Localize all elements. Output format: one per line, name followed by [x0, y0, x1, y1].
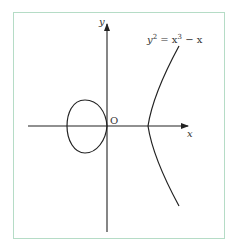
origin-label: O: [110, 115, 118, 126]
y-axis-label: y: [98, 16, 105, 27]
elliptic-curve-diagram: y x O y2 = x3 − x: [0, 0, 238, 251]
equation-label: y2 = x3 − x: [146, 33, 203, 45]
x-axis-label: x: [187, 128, 193, 139]
